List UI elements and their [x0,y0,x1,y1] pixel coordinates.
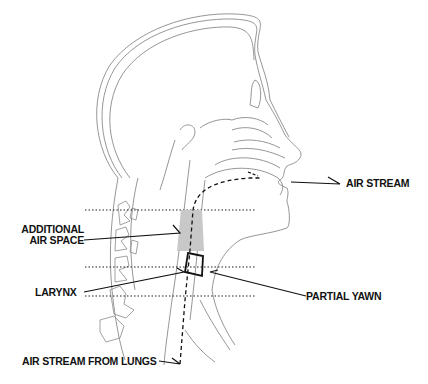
air-stream-arrowhead [248,172,258,176]
label-larynx: LARYNX [35,287,77,298]
head-neck-illustration [0,0,428,384]
diagram-canvas: AIR STREAM ADDITIONAL AIR SPACE LARYNX P… [0,0,428,384]
skull-outline [97,14,301,365]
label-air-stream-from-lungs: AIR STREAM FROM LUNGS [22,356,157,367]
label-partial-yawn: PARTIAL YAWN [306,291,381,302]
label-air-stream: AIR STREAM [346,178,409,189]
label-additional-air-space-line2: AIR SPACE [14,235,84,246]
leader-lines [84,177,340,364]
